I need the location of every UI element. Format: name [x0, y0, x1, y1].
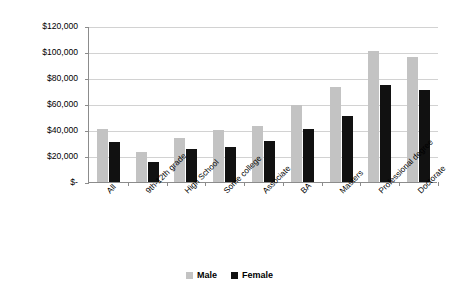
- bar-female[interactable]: [419, 90, 430, 182]
- bar-chart: $120,000$100,000$80,000$60,000$40,000$20…: [0, 0, 459, 296]
- x-axis-category-label: All: [105, 183, 118, 196]
- bar-male[interactable]: [330, 87, 341, 182]
- y-axis-tick-label: $80,000: [0, 74, 84, 83]
- legend-swatch-icon: [186, 272, 193, 279]
- bar-female[interactable]: [342, 116, 353, 182]
- bar-group: [128, 26, 167, 182]
- x-axis-tick: [283, 182, 284, 186]
- chart-legend: MaleFemale: [0, 270, 459, 280]
- x-axis-tick: [128, 182, 129, 186]
- bar-group: [283, 26, 322, 182]
- y-axis-labels: $120,000$100,000$80,000$60,000$40,000$20…: [0, 0, 84, 296]
- bar-male[interactable]: [97, 129, 108, 182]
- legend-item[interactable]: Female: [231, 270, 273, 280]
- bar-group: [89, 26, 128, 182]
- bar-male[interactable]: [368, 51, 379, 182]
- legend-swatch-icon: [231, 272, 238, 279]
- bar-male[interactable]: [213, 130, 224, 182]
- x-axis-tick: [438, 182, 439, 186]
- y-axis-tick-label: $-: [0, 178, 84, 187]
- bar-female[interactable]: [303, 129, 314, 182]
- bar-group: [205, 26, 244, 182]
- x-axis-category-label: BA: [299, 181, 313, 195]
- y-axis-tick-label: $100,000: [0, 48, 84, 57]
- y-axis-tick-label: $120,000: [0, 22, 84, 31]
- y-axis-tick-label: $40,000: [0, 126, 84, 135]
- bar-male[interactable]: [291, 105, 302, 182]
- bar-group: [322, 26, 361, 182]
- bar-female[interactable]: [380, 85, 391, 183]
- legend-label: Female: [242, 270, 273, 280]
- bar-group: [360, 26, 399, 182]
- y-axis-tick-label: $20,000: [0, 152, 84, 161]
- y-axis-tick: [85, 183, 89, 184]
- x-axis-tick: [244, 182, 245, 186]
- bar-female[interactable]: [109, 142, 120, 182]
- y-axis-tick-label: $60,000: [0, 100, 84, 109]
- legend-item[interactable]: Male: [186, 270, 217, 280]
- x-axis-tick: [399, 182, 400, 186]
- x-axis-tick: [205, 182, 206, 186]
- legend-label: Male: [197, 270, 217, 280]
- bar-group: [244, 26, 283, 182]
- bar-male[interactable]: [136, 152, 147, 182]
- x-axis-tick: [167, 182, 168, 186]
- x-axis-tick: [322, 182, 323, 186]
- x-axis-tick: [360, 182, 361, 186]
